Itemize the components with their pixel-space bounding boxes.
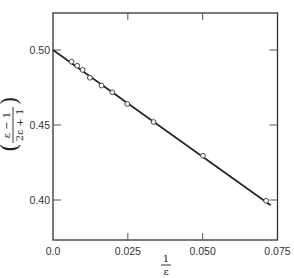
data-point: [87, 75, 92, 80]
x-label-denominator: ε: [163, 266, 168, 277]
chart: 0.00.0250.0500.075 0.400.450.50 1 ε ( ε …: [0, 0, 294, 278]
data-point: [99, 83, 104, 88]
fit-line: [53, 50, 271, 205]
y-axis-label: ( ε − 1 2ε + 1 ): [0, 96, 25, 152]
y-label-numerator: ε − 1: [1, 112, 12, 138]
x-label-numerator: 1: [163, 253, 169, 264]
y-tick-label: 0.45: [30, 119, 51, 131]
y-tick-label: 0.50: [30, 44, 51, 56]
data-point: [75, 63, 80, 68]
axis-ticks: [53, 13, 278, 240]
y-tick-labels: 0.400.450.50: [30, 44, 51, 206]
y-label-left-paren: (: [0, 143, 22, 152]
x-tick-label: 0.025: [115, 245, 141, 257]
x-tick-label: 0.0: [46, 245, 61, 257]
x-tick-label: 0.075: [264, 245, 290, 257]
data-point: [125, 102, 130, 107]
data-point: [264, 198, 269, 203]
y-label-right-paren: ): [0, 96, 22, 105]
x-axis-label: 1 ε: [161, 253, 171, 277]
data-point: [201, 153, 206, 158]
data-point: [110, 90, 115, 95]
x-tick-label: 0.050: [190, 245, 216, 257]
y-tick-label: 0.40: [30, 194, 51, 206]
y-label-denominator: 2ε + 1: [14, 109, 25, 142]
data-point: [151, 120, 156, 125]
data-point: [80, 68, 85, 73]
plot-frame: [53, 13, 278, 240]
data-point: [69, 59, 74, 64]
